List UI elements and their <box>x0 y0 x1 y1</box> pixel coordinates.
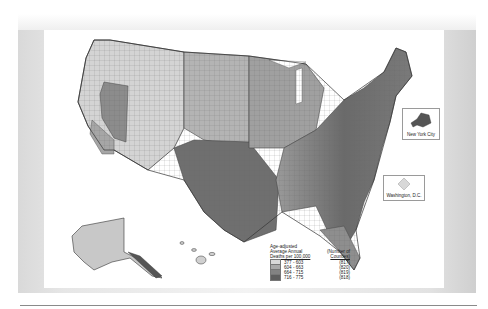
legend-range: 716 - 775 <box>284 275 318 280</box>
map-legend: Age-adjusted Average Annual Deaths per 1… <box>270 244 350 280</box>
legend-swatch <box>270 274 281 281</box>
hawaii-oahu <box>192 249 197 252</box>
bottom-divider <box>20 305 477 306</box>
alaska-southeast <box>128 252 162 278</box>
frame-top-fade <box>18 14 476 30</box>
legend-header: Age-adjusted Average Annual Deaths per 1… <box>270 244 350 260</box>
us-choropleth-map <box>44 30 444 288</box>
nyc-shape <box>403 109 439 131</box>
hawaii-kauai <box>180 242 184 245</box>
inset-label-dc: Washington, D.C. <box>384 193 424 198</box>
dc-shape <box>384 176 424 192</box>
legend-count: (818) <box>339 275 350 280</box>
hawaii-big-island <box>196 256 206 264</box>
inset-washington-dc: Washington, D.C. <box>383 175 425 201</box>
inset-label-nyc: New York City <box>403 132 439 137</box>
inset-new-york-city: New York City <box>402 108 440 140</box>
legend-item: 716 - 775 (818) <box>270 275 350 280</box>
hawaii-maui <box>209 252 215 255</box>
